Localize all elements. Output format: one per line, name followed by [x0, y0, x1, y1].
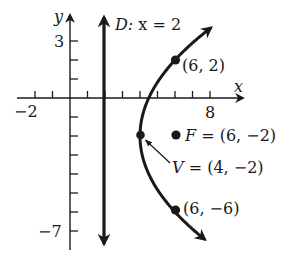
y-tick-label-neg7: −7: [38, 222, 62, 241]
y-axis-label: y: [53, 7, 64, 26]
vertex-label: V = (4, −2): [172, 158, 264, 177]
vertex-pointer-arrow: [146, 140, 171, 163]
vertex-label-equation: = (4, −2): [184, 158, 264, 177]
y-axis-ticks: [70, 41, 78, 231]
x-axis-ticks: [35, 91, 210, 98]
point-6-2-dot: [171, 55, 180, 64]
focus-label-equation: = (6, −2): [196, 126, 276, 145]
parabola-figure: y x 3 −7 −2 8 D: x = 2 (6, 2) (6, −6) V …: [0, 0, 289, 274]
y-tick-label-3: 3: [54, 32, 64, 51]
directrix-label-equation: x = 2: [133, 15, 181, 34]
point-6-2-label: (6, 2): [182, 56, 225, 75]
focus-label: F = (6, −2): [184, 126, 276, 145]
point-6-neg6-label: (6, −6): [183, 199, 239, 218]
x-tick-label-8: 8: [205, 103, 215, 122]
vertex-dot: [136, 131, 145, 140]
directrix-label-name: D:: [114, 15, 133, 34]
focus-dot: [171, 130, 180, 139]
focus-label-name: F: [184, 126, 197, 145]
x-tick-label-neg2: −2: [14, 102, 38, 121]
directrix-label: D: x = 2: [114, 15, 181, 34]
x-axis-label: x: [234, 77, 243, 96]
point-6-neg6-dot: [171, 205, 180, 214]
